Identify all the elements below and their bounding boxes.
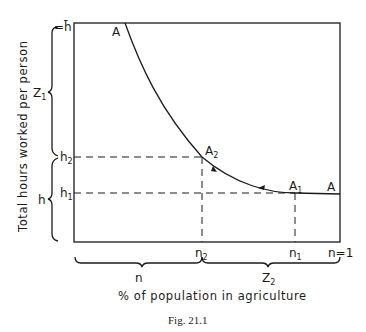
y-axis-title: Total hours worked per person <box>16 40 30 233</box>
brace-label-z2: Z2 <box>262 271 275 287</box>
x-tick-n1: n1 <box>289 246 302 262</box>
brace-z1 <box>48 27 58 156</box>
y-tick-h1: h1 <box>60 186 73 202</box>
brace-n <box>75 257 202 267</box>
brace-h <box>48 158 58 241</box>
brace-label-n: n <box>135 271 143 285</box>
point-a1: A1 <box>289 179 302 195</box>
x-axis-title: % of population in agriculture <box>118 289 307 303</box>
diagram-canvas: A A2 A1 A =h̄ h2 h1 n2 n1 n=1 Z1 h n Z2 … <box>0 0 366 332</box>
plot-frame <box>74 23 340 242</box>
dashed-guides <box>74 157 295 242</box>
brace-z2 <box>202 257 340 267</box>
hours-curve <box>125 23 340 194</box>
point-a-right: A <box>327 180 336 194</box>
x-tick-n-minus-1: n=1 <box>328 246 353 260</box>
figure-caption: Fig. 21.1 <box>168 314 207 326</box>
point-a-top: A <box>112 25 121 39</box>
point-a2: A2 <box>205 144 218 160</box>
brace-label-z1: Z1 <box>33 86 46 102</box>
left-braces <box>48 27 58 241</box>
y-tick-h2: h2 <box>60 150 73 166</box>
brace-label-h: h <box>38 193 46 207</box>
